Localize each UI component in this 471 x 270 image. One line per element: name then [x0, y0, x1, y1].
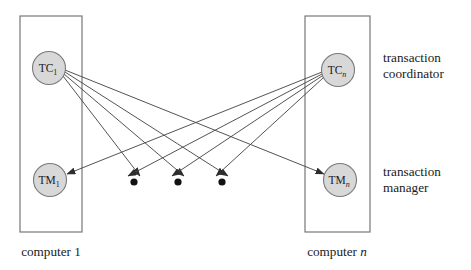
transaction-manager-caption-line1: transaction	[383, 164, 441, 179]
edge-tc1-to-dot-1	[63, 76, 140, 176]
tcn-base: TC	[328, 64, 343, 76]
computer-1-box	[20, 16, 82, 232]
tcn-subscript: n	[342, 69, 346, 78]
message-dot-2	[174, 178, 181, 185]
computer-n-caption-italic: n	[360, 244, 367, 259]
transaction-coordinator-caption-line2: coordinator	[383, 66, 444, 81]
transaction-architecture-diagram: TC1 TCn TM1 TMn transaction coordinator …	[0, 0, 471, 270]
computer-1-caption: computer 1	[21, 244, 81, 259]
message-dot-3	[218, 178, 225, 185]
tm1-subscript: 1	[56, 179, 60, 188]
edge-tc1-to-tm-n	[65, 70, 324, 174]
tmn-base: TM	[328, 174, 345, 186]
diagram-canvas: TC1 TCn TM1 TMn transaction coordinator …	[0, 0, 471, 270]
edge-tc-n-to-dot-1	[128, 74, 322, 176]
computer-n-caption-plain: computer	[307, 244, 360, 259]
tc1-base: TC	[39, 62, 54, 74]
edge-tc1-to-dot-3	[65, 72, 228, 176]
edge-tc-n-to-tm-1	[67, 72, 322, 174]
message-dot-1	[130, 178, 137, 185]
tmn-subscript: n	[346, 179, 350, 188]
computer-n-box	[305, 16, 370, 232]
transaction-manager-caption-line2: manager	[383, 180, 429, 195]
computer-n-caption: computer n	[307, 244, 367, 259]
tm1-base: TM	[38, 174, 55, 186]
edge-tc-n-to-dot-2	[172, 76, 322, 176]
tc1-subscript: 1	[53, 67, 57, 76]
transaction-coordinator-caption-line1: transaction	[383, 50, 441, 65]
